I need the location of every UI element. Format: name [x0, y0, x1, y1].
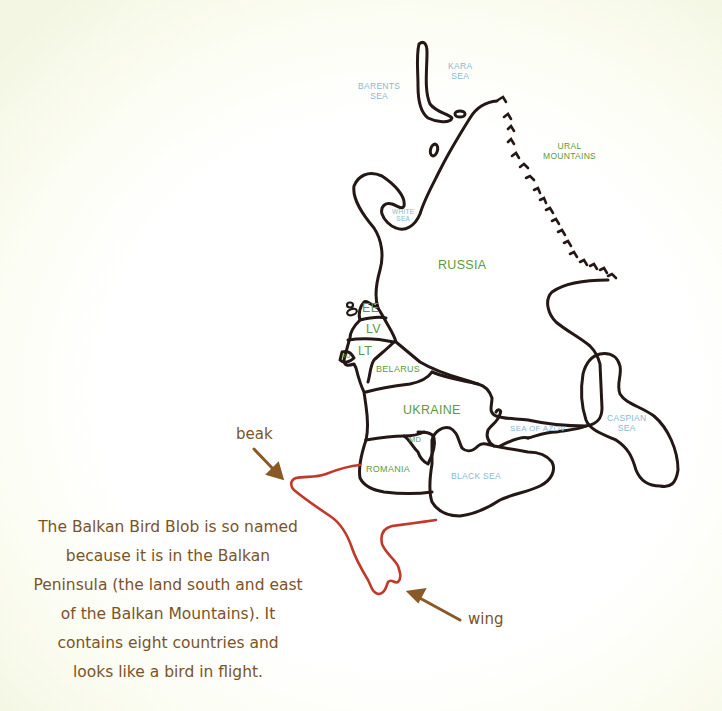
note-line: of the Balkan Mountains). It [18, 600, 318, 629]
kolguev-island [429, 143, 439, 156]
note-line: looks like a bird in flight. [18, 658, 318, 687]
novaya-zemlya-island [417, 42, 452, 121]
moldova-label: MD [409, 436, 421, 445]
kaliningrad-label: RU [342, 353, 351, 359]
estonia-label: EE [362, 301, 379, 315]
by-ua-border [366, 372, 432, 392]
sea-of-azov-label: SEA OF AZOV [510, 424, 566, 433]
lithuania-label: LT [358, 344, 372, 358]
ru-south-coast [500, 437, 528, 446]
lv-lt-border [348, 339, 394, 342]
wing-arrow [416, 596, 460, 620]
kara-sea-label: KARASEA [448, 62, 472, 82]
baltic-island-large [346, 307, 357, 316]
ee-lv-border [360, 317, 386, 320]
ua-ru-border [432, 372, 478, 384]
baltic-island-small [347, 303, 353, 308]
note-line: because it is in the Balkan [18, 542, 318, 571]
belarus-label: BELARUS [376, 364, 420, 374]
caspian-sea-label: CASPIANSEA [607, 414, 646, 434]
note-line: The Balkan Bird Blob is so named [18, 513, 318, 542]
wing-annotation: wing [468, 610, 503, 628]
ukraine-label: UKRAINE [403, 403, 461, 417]
ural-mountains-chevrons [498, 97, 616, 278]
note-line: contains eight countries and [18, 629, 318, 658]
note-line: Peninsula (the land south and east [18, 571, 318, 600]
black-sea-label: BLACK SEA [451, 472, 501, 482]
romania-label: ROMANIA [366, 464, 410, 474]
barents-sea-label: BARENTSSEA [358, 82, 400, 102]
white-sea-label: WHITESEA [392, 208, 414, 223]
latvia-label: LV [366, 322, 381, 336]
beak-annotation: beak [236, 425, 273, 443]
russia-label: RUSSIA [438, 258, 486, 272]
small-island [455, 111, 465, 117]
ural-mountains-label: URALMOUNTAINS [543, 142, 596, 162]
balkan-note: The Balkan Bird Blob is so named because… [18, 513, 318, 687]
